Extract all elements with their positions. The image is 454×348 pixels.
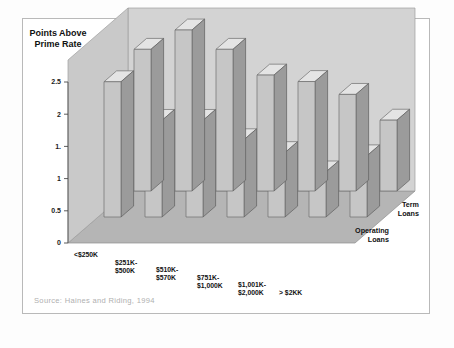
bar-front-face (175, 30, 192, 191)
bar-front-face (257, 75, 274, 191)
bar-side-face (315, 71, 328, 191)
y-axis-tick-label: 0 (57, 239, 61, 246)
bar-front-face (339, 94, 356, 191)
y-axis-tick-label: 2 (57, 111, 61, 118)
category-label: $510K- (156, 266, 178, 274)
chart-figure: Interest Rates on SME Loans Points Above… (0, 0, 454, 348)
source-note: Source: Haines and Riding, 1994 (34, 296, 155, 305)
bar-front-face (380, 120, 397, 191)
category-label: <$250K (74, 251, 98, 259)
bar-term-4 (298, 71, 328, 191)
bar-side-face (397, 109, 410, 191)
category-label: $2,000K (238, 289, 264, 297)
bar-term-5 (339, 83, 369, 191)
bar-side-face (192, 19, 205, 191)
bar-term-2 (216, 38, 246, 191)
chart-scene: 00.511.22.5<$250K$251K-$500K$510K-$570K$… (51, 8, 419, 297)
bar-side-face (233, 38, 246, 191)
y-axis-tick-label: 2.5 (51, 78, 61, 85)
bar-front-face (216, 49, 233, 191)
category-label: $751K- (197, 274, 219, 282)
bar-side-face (274, 64, 287, 191)
bar-term-0 (134, 38, 164, 191)
category-label: $1,001K- (238, 281, 266, 289)
category-label: $1,000K (197, 282, 223, 290)
bar-front-face (134, 49, 151, 191)
bar-side-face (121, 71, 134, 217)
bar-front-face (298, 82, 315, 191)
bar-term-6 (380, 109, 410, 191)
category-label: $500K (115, 267, 135, 275)
y-axis-tick-label: 1 (57, 175, 61, 182)
series-label-term-loans: Loans (398, 209, 419, 218)
bar-side-face (151, 38, 164, 191)
series-label-operating-loans: Loans (368, 235, 389, 244)
category-label: $251K- (115, 259, 137, 267)
bar-term-3 (257, 64, 287, 191)
category-label: > $2KK (279, 289, 302, 297)
y-axis-tick-label: 1. (55, 143, 61, 150)
y-axis-tick-label: 0.5 (51, 207, 61, 214)
bar-front-face (104, 82, 121, 217)
bar-term-1 (175, 19, 205, 191)
bar-operating-0 (104, 71, 134, 217)
category-label: $570K (156, 274, 176, 282)
bar-side-face (356, 83, 369, 191)
